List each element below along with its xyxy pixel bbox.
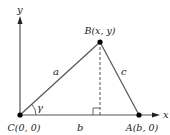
- y-axis-arrow-icon: [18, 16, 23, 24]
- side-a-label: a: [53, 66, 59, 77]
- point-B-label: B(x, y): [83, 25, 115, 36]
- right-angle-mark: [93, 108, 100, 115]
- point-B: [97, 39, 102, 44]
- y-axis-label: y: [16, 4, 23, 15]
- angle-gamma-label: γ: [37, 102, 43, 113]
- angle-arc: [32, 104, 36, 115]
- point-A: [136, 112, 141, 117]
- triangle-diagram: y x γ B(x, y) C(0, 0) A(b, 0) a c b: [0, 0, 170, 135]
- point-C-label: C(0, 0): [8, 122, 41, 133]
- point-A-label: A(b, 0): [125, 122, 159, 133]
- x-axis-label: x: [163, 109, 169, 120]
- side-c: [100, 42, 139, 115]
- point-C: [17, 112, 22, 117]
- x-axis-arrow-icon: [152, 113, 160, 118]
- side-b-label: b: [77, 122, 83, 133]
- side-c-label: c: [121, 66, 127, 77]
